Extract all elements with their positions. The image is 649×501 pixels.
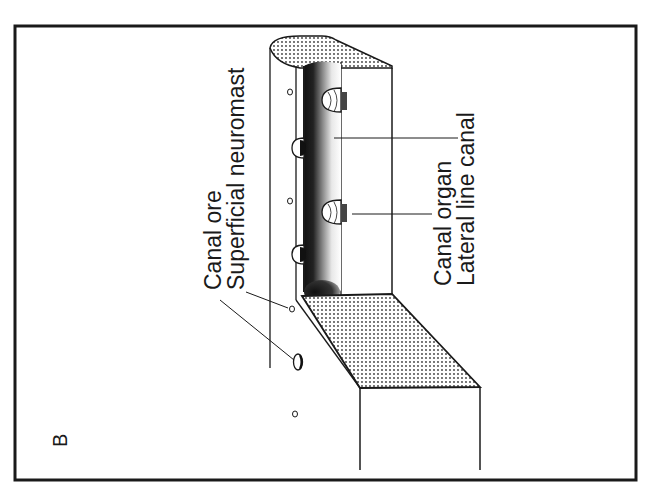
superficial-neuromast-3 <box>290 306 295 312</box>
superficial-neuromast-1 <box>288 89 293 95</box>
label-superficial-neuromast: Superficial neuromast <box>223 67 249 290</box>
leader-canal-pore <box>220 300 294 360</box>
canal-organ-lower <box>322 200 347 224</box>
lateral-line-diagram: Canal ore Superficial neuromast Canal or… <box>0 0 649 501</box>
superficial-neuromast-4 <box>293 411 298 417</box>
leader-superficial-neuromast <box>246 292 288 308</box>
canal-organ-upper <box>322 88 347 112</box>
tissue-cross-section <box>302 294 480 388</box>
panel-label: B <box>49 434 71 447</box>
label-lateral-line-canal: Lateral line canal <box>453 112 479 286</box>
superficial-neuromast-2 <box>288 198 293 204</box>
